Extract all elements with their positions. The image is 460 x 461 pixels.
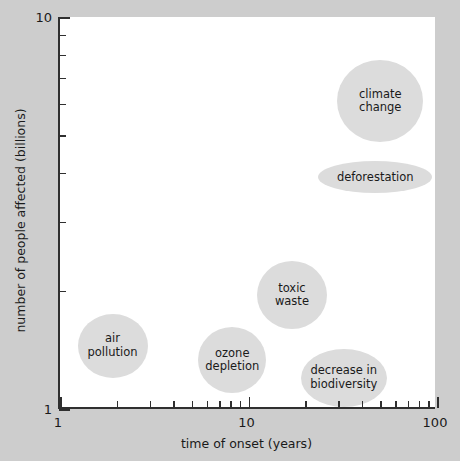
x-tick-minor [395, 401, 397, 408]
x-tick-minor [207, 401, 209, 408]
x-tick-minor [117, 401, 119, 408]
x-tick-major [249, 397, 251, 408]
bubble-climate-change[interactable]: climate change [337, 60, 423, 142]
y-axis-title: number of people affected (billions) [13, 51, 28, 391]
y-tick-minor [59, 78, 66, 80]
y-tick-minor [59, 35, 66, 37]
x-tick-label: 10 [238, 415, 255, 430]
bubble-layer: climate changedeforestationtoxic wasteai… [60, 17, 435, 407]
plot-area: climate changedeforestationtoxic wasteai… [58, 17, 435, 409]
y-tick-major [59, 17, 70, 19]
y-tick-minor [59, 222, 66, 224]
y-tick-minor [59, 173, 66, 175]
y-tick-label: 10 [16, 10, 52, 25]
x-tick-minor [305, 401, 307, 408]
x-tick-minor [219, 401, 221, 408]
x-tick-label: 100 [423, 415, 448, 430]
bubble-decrease-in-biodiversity[interactable]: decrease in biodiversity [301, 349, 387, 407]
bubble-toxic-waste[interactable]: toxic waste [257, 261, 327, 329]
y-tick-minor [59, 55, 66, 57]
x-axis-title: time of onset (years) [58, 436, 435, 451]
x-tick-minor [419, 401, 421, 408]
x-tick-minor [173, 401, 175, 408]
x-tick-major [437, 397, 439, 408]
x-tick-label: 1 [54, 415, 62, 430]
x-tick-minor [240, 401, 242, 408]
y-tick-minor [59, 291, 66, 293]
y-tick-minor [59, 135, 66, 137]
x-tick-minor [192, 401, 194, 408]
x-tick-minor [408, 401, 410, 408]
x-tick-minor [150, 401, 152, 408]
bubble-deforestation[interactable]: deforestation [318, 161, 432, 193]
y-tick-minor [59, 104, 66, 106]
bubble-air-pollution[interactable]: air pollution [78, 314, 148, 378]
bubble-chart-figure: climate changedeforestationtoxic wasteai… [0, 0, 460, 461]
y-tick-label: 1 [16, 402, 52, 417]
x-tick-major [60, 397, 62, 408]
x-tick-minor [338, 401, 340, 408]
bubble-ozone-depletion[interactable]: ozone depletion [198, 327, 266, 393]
x-tick-minor [362, 401, 364, 408]
y-tick-major [59, 409, 70, 411]
x-tick-minor [428, 401, 430, 408]
x-tick-minor [380, 401, 382, 408]
x-tick-minor [230, 401, 232, 408]
